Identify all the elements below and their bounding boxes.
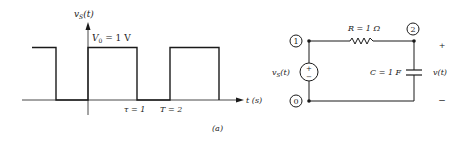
source-plus-sign: + — [306, 65, 312, 73]
node-dot-0 — [307, 99, 311, 103]
node-dot-2 — [412, 39, 416, 43]
resistor-label: R = 1 Ω — [347, 24, 380, 33]
source-label: vS(t) — [272, 68, 290, 78]
output-plus-sign: + — [439, 41, 446, 50]
amplitude-label: V0 = 1 V — [92, 33, 131, 44]
figure-caption: (a) — [212, 124, 223, 133]
output-voltage-label: v(t) — [433, 68, 447, 77]
period-label: T = 2 — [160, 105, 182, 114]
figure: vS(t) V0 = 1 V τ = 1 T = 2 t (s) (a) — [0, 0, 471, 141]
node-dot-1 — [307, 39, 311, 43]
square-wave — [32, 48, 219, 101]
x-axis-arrow-icon — [236, 98, 244, 103]
y-axis-label: vS(t) — [74, 9, 94, 20]
y-axis-arrow-icon — [86, 22, 91, 30]
resistor-icon — [350, 38, 373, 44]
diagram-svg: vS(t) V0 = 1 V τ = 1 T = 2 t (s) (a) — [0, 0, 471, 141]
node-2-label: 2 — [410, 25, 415, 34]
node-0-label: 0 — [293, 97, 298, 106]
source-minus-sign: − — [306, 73, 312, 81]
waveform-plot — [22, 22, 244, 115]
output-minus-sign: − — [438, 95, 446, 105]
tau-label: τ = 1 — [124, 105, 145, 114]
node-1-label: 1 — [293, 37, 298, 46]
capacitor-label: C = 1 F — [370, 68, 402, 77]
x-axis-label: t (s) — [246, 96, 262, 105]
